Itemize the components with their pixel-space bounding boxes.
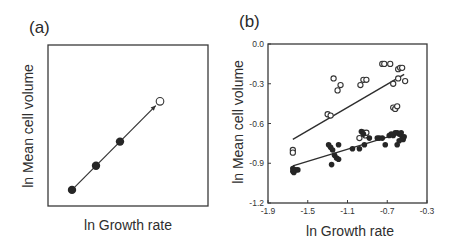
y-tick-label: -0.6	[249, 119, 264, 129]
data-point-open	[400, 65, 405, 70]
figure: (a) ln Growth rate ln Mean cell volume (…	[0, 0, 456, 248]
data-point-filled	[362, 142, 368, 148]
panel-a-label: (a)	[29, 18, 50, 37]
data-point-open	[357, 135, 362, 140]
data-point-open	[331, 76, 336, 81]
x-tick-label: -1.1	[340, 206, 355, 216]
data-point-filled	[295, 167, 301, 173]
data-point-filled	[367, 135, 373, 141]
data-point-open	[396, 76, 401, 81]
trend-arrow-line	[72, 106, 156, 190]
data-point-open	[290, 150, 295, 155]
y-tick-label: -1.2	[249, 198, 264, 208]
data-point-open	[395, 104, 400, 109]
data-point-open	[328, 113, 333, 118]
y-tick-label: 0.0	[252, 39, 264, 49]
data-point-open	[388, 61, 393, 66]
data-point-open	[382, 61, 387, 66]
data-point-filled	[329, 162, 335, 168]
data-point-filled	[68, 186, 76, 194]
y-tick-label: -0.3	[249, 79, 264, 89]
y-tick-label: -0.9	[249, 158, 264, 168]
data-point-filled	[396, 138, 402, 144]
data-point-filled	[401, 134, 407, 140]
panel-b: (b) -1.9-1.5-1.1-0.7-0.30.0-0.3-0.6-0.9-…	[230, 12, 435, 239]
data-point-open	[364, 77, 369, 82]
data-point-open	[335, 88, 340, 93]
data-point-filled	[382, 142, 388, 148]
panel-b-label: (b)	[239, 12, 260, 31]
data-point-filled	[379, 135, 385, 141]
fit-line-open	[293, 74, 404, 139]
panel-b-axes-ticks: -1.9-1.5-1.1-0.7-0.30.0-0.3-0.6-0.9-1.2	[249, 39, 434, 216]
panel-b-plot-area	[290, 61, 408, 175]
x-tick-label: -1.5	[300, 206, 315, 216]
data-point-filled	[350, 146, 356, 152]
panel-a-x-axis-title: ln Growth rate	[84, 217, 172, 233]
data-point-filled	[336, 156, 342, 162]
data-point-filled	[357, 146, 363, 152]
panel-a-plot-area	[68, 98, 164, 195]
data-point-filled	[336, 142, 342, 148]
data-point-open	[338, 82, 343, 87]
panel-b-y-axis-title: ln Mean cell volume	[230, 60, 246, 184]
panel-a-frame	[48, 45, 208, 206]
panel-a: (a) ln Growth rate ln Mean cell volume	[20, 18, 208, 233]
data-point-filled	[92, 162, 100, 170]
data-point-open	[403, 79, 408, 84]
panel-b-x-axis-title: ln Growth rate	[306, 223, 394, 239]
data-point-filled	[361, 131, 367, 137]
data-point-filled	[330, 147, 336, 153]
panel-a-y-axis-title: ln Mean cell volume	[20, 64, 36, 188]
data-point-filled	[116, 137, 124, 145]
x-tick-label: -0.7	[380, 206, 395, 216]
x-tick-label: -0.3	[420, 206, 435, 216]
data-point-open	[391, 81, 396, 86]
data-point-open	[358, 82, 363, 87]
data-point-open	[156, 98, 164, 106]
